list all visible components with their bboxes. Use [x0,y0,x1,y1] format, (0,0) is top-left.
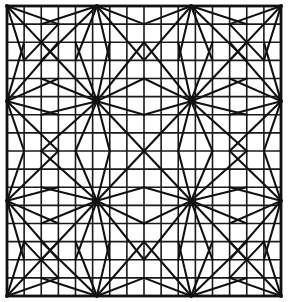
hub-node [95,294,99,298]
hub-node [279,199,283,203]
hub-node [189,294,193,298]
hub-node [5,294,9,298]
hub-node [279,294,283,298]
hub-node [95,4,99,8]
hub-node [279,4,283,8]
hub-node [189,4,193,8]
hub-node [5,99,9,103]
hub-node [188,99,193,104]
hub-node [279,99,283,103]
hub-node [5,199,9,203]
mesh-figure [0,0,288,302]
mesh-canvas [0,0,288,302]
hub-node [188,198,193,203]
hub-node [5,4,9,8]
hub-node [94,198,99,203]
hub-node [94,99,99,104]
